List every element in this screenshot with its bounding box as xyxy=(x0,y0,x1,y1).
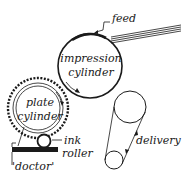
plate-label-2: cylinder xyxy=(17,110,63,123)
feed-sheets xyxy=(111,25,181,43)
impression-label-2: cylinder xyxy=(68,66,114,79)
ink-trough xyxy=(12,147,58,152)
impression-label-1: impression xyxy=(60,52,121,65)
feed-label: feed xyxy=(111,12,136,25)
plate-arrow-icon xyxy=(60,101,64,106)
doctor-blade xyxy=(18,127,24,146)
delivery-label: delivery xyxy=(136,134,182,147)
delivery-upper-pulley xyxy=(114,91,146,123)
roller-label: roller xyxy=(62,147,93,160)
plate-label-1: plate xyxy=(26,96,55,109)
impression-top-arc xyxy=(72,34,106,40)
feed-pointer xyxy=(96,22,110,32)
ink-label: ink xyxy=(64,134,82,147)
trough-wall xyxy=(12,143,16,147)
doctor-label: 'doctor' xyxy=(12,160,54,173)
delivery-lower-pulley xyxy=(105,151,123,169)
press-diagram: feed impression cylinder plate cylinder … xyxy=(0,0,191,182)
impression-arrow-icon xyxy=(75,88,80,93)
ink-roller xyxy=(38,135,51,148)
